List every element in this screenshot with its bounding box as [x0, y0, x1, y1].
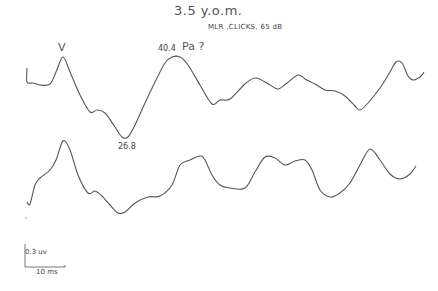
scale-bar: [25, 244, 65, 267]
waveform-trace-top: [27, 56, 424, 138]
waveform-plot: [0, 0, 438, 291]
waveform-trace-bottom: [27, 141, 416, 214]
